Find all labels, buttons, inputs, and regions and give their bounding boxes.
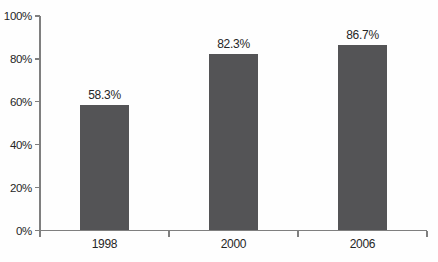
bar-chart: 58.3%82.3%86.7%0%20%40%60%80%100%1998200…: [0, 0, 438, 262]
bar-chart-figure: 58.3%82.3%86.7%0%20%40%60%80%100%1998200…: [0, 0, 438, 262]
y-tick-label: 40%: [10, 139, 32, 151]
bar-value-label: 82.3%: [217, 37, 250, 51]
y-tick-label: 60%: [10, 96, 32, 108]
bar: [80, 105, 129, 230]
y-tick-label: 20%: [10, 182, 32, 194]
y-tick-label: 100%: [4, 10, 32, 22]
x-category-label: 1998: [92, 237, 118, 251]
bar-value-label: 58.3%: [88, 88, 121, 102]
y-tick-label: 80%: [10, 53, 32, 65]
x-category-label: 2006: [350, 237, 376, 251]
bar: [209, 54, 258, 231]
bar: [338, 45, 387, 231]
y-tick-label: 0%: [16, 225, 32, 237]
bar-value-label: 86.7%: [346, 28, 379, 42]
x-category-label: 2000: [221, 237, 247, 251]
